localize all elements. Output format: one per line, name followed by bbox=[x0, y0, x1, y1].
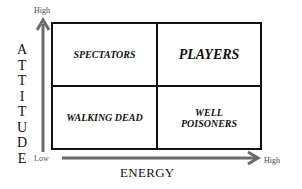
y-axis-title: A T T I T U D E bbox=[15, 42, 29, 166]
quadrant-players: PLAYERS bbox=[158, 24, 260, 85]
y-title-letter: T bbox=[15, 73, 29, 89]
well-poisoners-line2: POISONERS bbox=[181, 118, 237, 129]
y-title-letter: T bbox=[15, 104, 29, 120]
quadrant-walking-dead: WALKING DEAD bbox=[53, 87, 156, 148]
y-title-letter: I bbox=[15, 89, 29, 105]
axis-low-label: Low bbox=[34, 154, 49, 163]
well-poisoners-line1: WELL bbox=[195, 107, 223, 118]
y-axis-high-label: High bbox=[34, 6, 50, 15]
quadrant-well-poisoners: WELL POISONERS bbox=[158, 87, 260, 148]
x-axis-title: ENERGY bbox=[120, 165, 175, 181]
quadrant-grid: SPECTATORS PLAYERS WALKING DEAD WELL POI… bbox=[51, 22, 262, 150]
y-title-letter: U bbox=[15, 120, 29, 136]
y-title-letter: T bbox=[15, 58, 29, 74]
y-title-letter: A bbox=[15, 42, 29, 58]
x-axis-high-label: High bbox=[264, 156, 280, 165]
y-title-letter: E bbox=[15, 151, 29, 167]
quadrant-spectators: SPECTATORS bbox=[53, 24, 156, 85]
y-title-letter: D bbox=[15, 135, 29, 151]
